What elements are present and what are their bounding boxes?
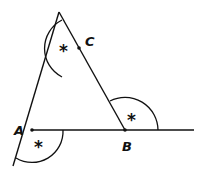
line-cb-extended [59,12,125,130]
label-a: A [13,123,24,138]
label-c: C [85,34,95,49]
triangle-diagram: A B C * * * [0,0,204,177]
label-b: B [122,139,132,154]
angle-mark-a: * [34,137,43,157]
point-a [30,128,34,132]
angle-mark-c: * [59,41,68,61]
point-c [77,46,81,50]
angle-mark-b: * [127,110,136,130]
